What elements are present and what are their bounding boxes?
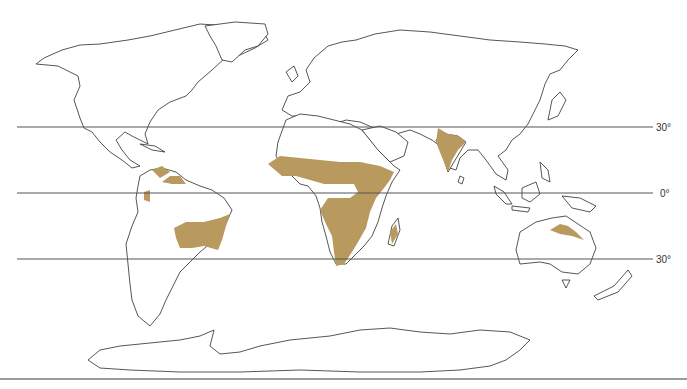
- new-guinea: [562, 196, 596, 212]
- landmasses: [36, 22, 632, 372]
- savanna-ecuador: [144, 190, 150, 202]
- latitude-label-30n: 30°: [656, 122, 671, 133]
- antarctica: [88, 328, 530, 372]
- cuba: [140, 144, 165, 152]
- world-map: 30° 0° 30°: [0, 0, 687, 389]
- tasmania: [562, 280, 570, 288]
- latitude-label-equator: 0°: [660, 188, 670, 199]
- latitude-label-30s: 30°: [656, 254, 671, 265]
- sri-lanka: [458, 176, 464, 184]
- sumatra: [494, 186, 512, 204]
- japan: [548, 92, 566, 120]
- java: [512, 206, 530, 212]
- australia: [516, 216, 596, 274]
- philippines: [540, 162, 550, 182]
- borneo: [522, 182, 540, 202]
- new-zealand: [594, 270, 632, 300]
- british-isles: [286, 66, 298, 82]
